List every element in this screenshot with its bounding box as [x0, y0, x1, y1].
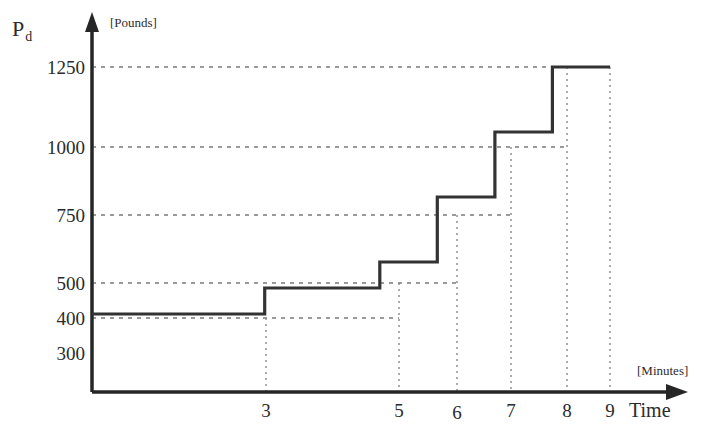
y-axis — [85, 12, 99, 392]
y-tick-label-400: 400 — [0, 309, 85, 328]
chart-canvas — [0, 0, 703, 430]
x-tick-label-9: 9 — [605, 401, 615, 420]
y-axis-symbol-subscript: d — [25, 29, 32, 44]
x-axis-name-label: Time — [629, 400, 671, 420]
step-chart: Pd [Pounds] [Minutes] Time 1250 1000 750… — [0, 0, 703, 430]
y-tick-label-300: 300 — [0, 344, 85, 363]
x-axis — [92, 384, 688, 400]
x-tick-label-3: 3 — [261, 401, 271, 420]
x-tick-label-7: 7 — [506, 401, 516, 420]
y-tick-label-750: 750 — [0, 206, 85, 225]
y-tick-label-1250: 1250 — [0, 58, 85, 77]
y-axis-symbol: Pd — [12, 18, 32, 48]
x-tick-label-8: 8 — [562, 401, 572, 420]
y-tick-label-500: 500 — [0, 274, 85, 293]
x-tick-label-6: 6 — [452, 403, 462, 422]
x-tick-label-5: 5 — [394, 401, 404, 420]
step-series-demand — [92, 67, 610, 314]
y-tick-label-1000: 1000 — [0, 138, 85, 157]
y-axis-symbol-base: P — [12, 16, 24, 41]
y-axis-unit-label: [Pounds] — [110, 16, 157, 29]
x-axis-unit-label: [Minutes] — [637, 364, 688, 377]
